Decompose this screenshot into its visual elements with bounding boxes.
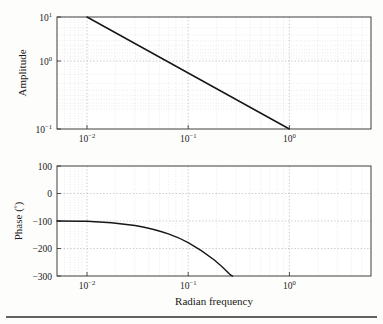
amplitude-ytick-2: 10−1	[35, 123, 52, 135]
phase-axis-title: Phase (°)	[12, 201, 25, 240]
amplitude-xtick-labels: 10−2 10−1 100	[79, 132, 297, 144]
amplitude-xtick-0: 10−2	[79, 132, 96, 144]
amplitude-plot-background	[57, 17, 371, 129]
phase-ytick-2: −100	[32, 217, 52, 227]
phase-xtick-2: 100	[283, 279, 297, 291]
phase-xtick-1: 10−1	[180, 279, 197, 291]
phase-xaxis-title: Radian frequency	[175, 295, 253, 307]
bode-plot-figure: 101 100 10−1 10−2 10−1 100	[0, 0, 383, 324]
phase-ytick-4: −300	[32, 272, 52, 282]
amplitude-ytick-1: 100	[39, 55, 53, 67]
amplitude-axis-title: Amplitude	[16, 49, 28, 96]
phase-panel: 100 0 −100 −200 −300 10−2 10−1 100	[12, 162, 371, 308]
amplitude-xtick-2: 100	[283, 132, 297, 144]
phase-ytick-1: 0	[47, 189, 52, 199]
phase-ytick-3: −200	[32, 244, 52, 254]
phase-xtick-labels: 10−2 10−1 100	[79, 279, 297, 291]
phase-ytick-0: 100	[38, 162, 53, 172]
amplitude-ytick-labels: 101 100 10−1	[35, 11, 52, 135]
amplitude-panel: 101 100 10−1 10−2 10−1 100	[16, 11, 371, 145]
phase-xtick-0: 10−2	[79, 279, 96, 291]
phase-ytick-labels: 100 0 −100 −200 −300	[32, 162, 52, 282]
amplitude-xtick-1: 10−1	[180, 132, 197, 144]
figure-page: 101 100 10−1 10−2 10−1 100	[0, 0, 383, 324]
amplitude-ytick-0: 101	[39, 11, 52, 23]
